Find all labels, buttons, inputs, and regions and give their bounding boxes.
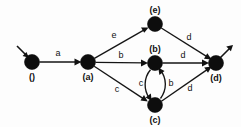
edge-start-a [40, 59, 82, 66]
node-b[interactable] [148, 56, 163, 71]
node-label-d: (d) [210, 73, 222, 83]
node-label-e: (e) [150, 5, 161, 15]
node-c[interactable] [148, 98, 163, 113]
node-label-c: (c) [150, 115, 161, 125]
edge-c-b [158, 68, 165, 99]
edge-a-b [96, 60, 149, 67]
node-d[interactable] [209, 56, 224, 71]
edge-label-start-a: a [55, 48, 60, 58]
node-label-a: (a) [83, 72, 94, 82]
diagram-canvas: a e b c d d [0, 0, 241, 127]
edge-label-a-b: b [118, 50, 123, 60]
node-label-start: () [29, 72, 35, 82]
edge-b-c [145, 70, 152, 101]
edge-b-d [163, 60, 210, 67]
state-diagram: a e b c d d [0, 0, 241, 127]
exit-arrow [220, 45, 233, 58]
node-start[interactable] [25, 55, 40, 70]
edge-label-b-d: d [180, 50, 185, 60]
node-e[interactable] [148, 17, 163, 32]
node-label-b: (b) [149, 44, 161, 54]
edge-label-a-e: e [111, 30, 116, 40]
edge-label-c-d: d [187, 83, 192, 93]
edge-label-b-c: c [139, 78, 144, 88]
edge-label-c-b: b [168, 78, 173, 88]
edge-label-e-d: d [186, 32, 191, 42]
edge-label-a-c: c [115, 84, 120, 94]
node-a[interactable] [81, 55, 96, 70]
